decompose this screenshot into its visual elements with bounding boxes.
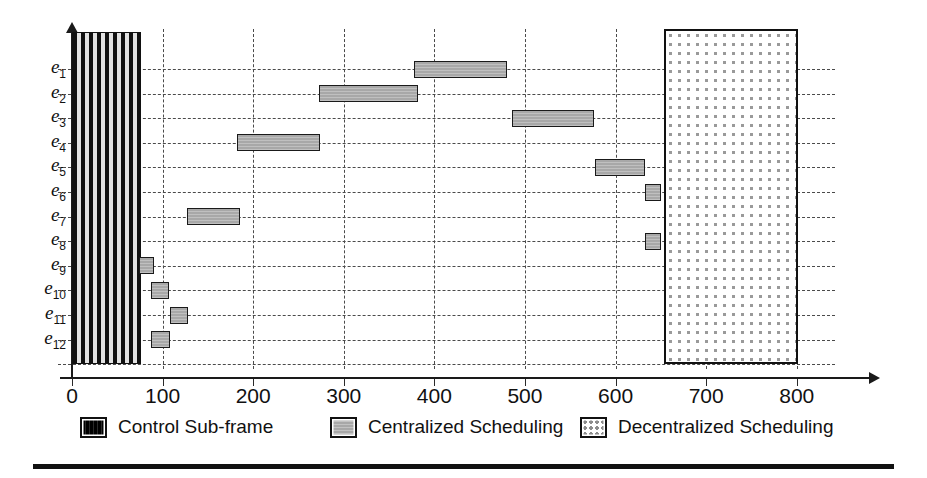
legend-control-sub-frame-swatch-icon xyxy=(80,417,107,438)
gantt-bar-e11 xyxy=(170,307,188,324)
gantt-bar-e1 xyxy=(414,61,507,78)
legend-centralized-scheduling[interactable]: Centralized Scheduling xyxy=(330,416,563,438)
x-axis-arrow-icon xyxy=(869,372,880,384)
x-tick-label-500: 500 xyxy=(490,384,560,408)
x-tick-label-100: 100 xyxy=(128,384,198,408)
x-tick-label-300: 300 xyxy=(309,384,379,408)
gantt-bar-e9 xyxy=(139,257,154,274)
hgridline-baseline xyxy=(58,364,835,365)
gantt-bar-e8 xyxy=(645,233,661,250)
legend-decentralized-scheduling[interactable]: Decentralized Scheduling xyxy=(580,416,833,438)
gantt-bar-e6 xyxy=(645,184,661,201)
vgridline-600 xyxy=(616,29,617,369)
region-decentralized-scheduling xyxy=(664,29,798,364)
legend-centralized-scheduling-label: Centralized Scheduling xyxy=(368,416,563,438)
plot-area xyxy=(72,45,833,375)
x-axis-line xyxy=(60,377,872,379)
x-tick-label-700: 700 xyxy=(671,384,741,408)
vgridline-100 xyxy=(163,29,164,369)
gantt-bar-e3 xyxy=(512,110,594,127)
legend-decentralized-scheduling-swatch-icon xyxy=(580,417,607,438)
vgridline-500 xyxy=(525,29,526,369)
chart-legend: Control Sub-frameCentralized SchedulingD… xyxy=(72,408,872,446)
region-control-sub-frame xyxy=(72,32,141,364)
x-tick-label-200: 200 xyxy=(218,384,288,408)
x-tick-label-400: 400 xyxy=(399,384,469,408)
legend-control-sub-frame[interactable]: Control Sub-frame xyxy=(80,416,273,438)
gantt-bar-e4 xyxy=(237,134,320,151)
x-tick-label-600: 600 xyxy=(581,384,651,408)
legend-control-sub-frame-label: Control Sub-frame xyxy=(118,416,273,438)
bottom-divider-rule xyxy=(33,464,894,469)
x-tick-label-800: 800 xyxy=(762,384,832,408)
gantt-bar-e12 xyxy=(151,331,170,348)
vgridline-400 xyxy=(434,29,435,369)
gantt-bar-e2 xyxy=(319,85,418,102)
vgridline-200 xyxy=(253,29,254,369)
gantt-bar-e10 xyxy=(151,282,169,299)
vgridline-300 xyxy=(344,29,345,369)
legend-centralized-scheduling-swatch-icon xyxy=(330,417,357,438)
gantt-bar-e7 xyxy=(187,208,240,225)
x-tick-label-0: 0 xyxy=(37,384,107,408)
figure-canvas: e1e2e3e4e5e6e7e8e9e10e11e12 010020030040… xyxy=(0,0,927,478)
gantt-bar-e5 xyxy=(595,159,645,176)
legend-decentralized-scheduling-label: Decentralized Scheduling xyxy=(618,416,833,438)
